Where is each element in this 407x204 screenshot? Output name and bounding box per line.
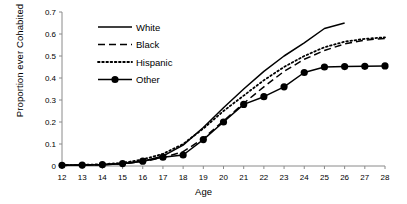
data-point-other — [260, 93, 267, 100]
x-axis-title: Age — [0, 186, 407, 197]
y-tick-label: 0.7 — [45, 8, 57, 17]
x-tick-label: 13 — [78, 173, 87, 182]
x-tick-label: 26 — [340, 173, 349, 182]
x-tick-label: 21 — [239, 173, 248, 182]
x-tick-label: 25 — [320, 173, 329, 182]
data-point-other — [79, 162, 86, 169]
data-point-other — [280, 83, 287, 90]
data-point-other — [321, 63, 328, 70]
y-tick-label: 0 — [52, 162, 57, 171]
data-point-other — [200, 136, 207, 143]
data-point-other — [381, 62, 388, 69]
x-tick-label: 20 — [219, 173, 228, 182]
y-tick-label: 0.5 — [45, 52, 57, 61]
legend-group: WhiteBlackHispanicOther — [98, 22, 173, 86]
x-tick-label: 16 — [138, 173, 147, 182]
data-point-other — [240, 101, 247, 108]
x-tick-label: 27 — [360, 173, 369, 182]
y-tick-label: 0.2 — [45, 118, 57, 127]
data-point-other — [99, 161, 106, 168]
data-point-other — [361, 63, 368, 70]
x-tick-label: 19 — [199, 173, 208, 182]
data-point-other — [119, 160, 126, 167]
legend-marker-other — [111, 76, 118, 83]
legend-label-black: Black — [136, 39, 159, 50]
x-tick-label: 22 — [259, 173, 268, 182]
series-line-hispanic — [62, 37, 385, 165]
data-point-other — [220, 118, 227, 125]
y-tick-label: 0.4 — [45, 74, 57, 83]
x-tick-label: 28 — [381, 173, 390, 182]
x-tick-label: 12 — [58, 173, 67, 182]
legend-label-other: Other — [136, 74, 160, 85]
x-tick-label: 18 — [179, 173, 188, 182]
axes-group: 00.10.20.30.40.50.60.7121314151617181920… — [45, 8, 390, 182]
data-point-other — [139, 158, 146, 165]
series-line-other — [62, 66, 385, 165]
legend-label-hispanic: Hispanic — [136, 57, 173, 68]
data-point-other — [301, 69, 308, 76]
x-tick-label: 24 — [300, 173, 309, 182]
data-point-other — [159, 154, 166, 161]
series-line-black — [62, 38, 385, 165]
y-tick-label: 0.3 — [45, 96, 57, 105]
x-tick-label: 14 — [98, 173, 107, 182]
x-tick-label: 17 — [158, 173, 167, 182]
x-tick-label: 23 — [280, 173, 289, 182]
data-point-other — [180, 151, 187, 158]
y-tick-label: 0.6 — [45, 30, 57, 39]
x-tick-label: 15 — [118, 173, 127, 182]
chart-canvas: 00.10.20.30.40.50.60.7121314151617181920… — [0, 0, 407, 204]
y-tick-label: 0.1 — [45, 140, 57, 149]
data-point-other — [58, 162, 65, 169]
legend-label-white: White — [136, 22, 160, 33]
data-point-other — [341, 63, 348, 70]
series-group — [58, 23, 388, 169]
cohabitation-line-chart: 00.10.20.30.40.50.60.7121314151617181920… — [0, 0, 407, 204]
y-axis-title: Proportion ever Cohabited — [14, 0, 25, 136]
